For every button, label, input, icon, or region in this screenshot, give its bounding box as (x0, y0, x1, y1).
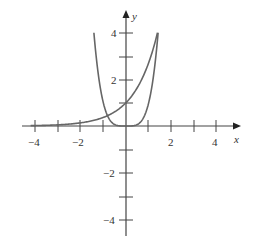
y-tick-label: −4 (103, 214, 115, 226)
x-tick-label: −4 (28, 136, 40, 148)
x-axis-arrow-icon (233, 123, 241, 130)
y-tick-label: 2 (111, 74, 117, 86)
x-axis-label: x (233, 133, 239, 145)
y-axis-arrow-icon (123, 10, 130, 18)
x-tick-label: 2 (168, 136, 174, 148)
exp-curve (31, 33, 158, 126)
y-tick-label: 4 (111, 27, 117, 39)
x-tick-label: −2 (72, 136, 84, 148)
y-tick-label: −2 (103, 167, 115, 179)
x-tick-label: 4 (212, 136, 218, 148)
chart: −4 −2 2 4 x 4 2 −2 −4 y (0, 0, 253, 246)
y-axis-label: y (131, 10, 137, 22)
